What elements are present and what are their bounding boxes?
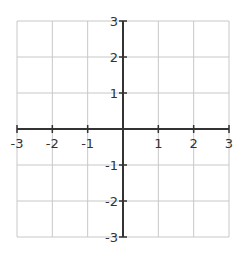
- x-tick-label: -2: [46, 136, 59, 151]
- x-tick-label: 3: [225, 136, 233, 151]
- y-tick-label: 3: [110, 14, 118, 29]
- y-tick-label: -1: [105, 158, 118, 173]
- y-tick-label: 1: [110, 86, 118, 101]
- axes: [17, 21, 229, 237]
- x-tick-label: 1: [154, 136, 162, 151]
- y-tick-label: 2: [110, 50, 118, 65]
- y-tick-label: -2: [105, 194, 118, 209]
- x-tick-label: 2: [190, 136, 198, 151]
- y-tick-label: -3: [105, 230, 118, 245]
- x-tick-label: -1: [81, 136, 94, 151]
- x-tick-label: -3: [11, 136, 24, 151]
- coordinate-plane: -3-2-1123-3-2-1123: [0, 0, 241, 254]
